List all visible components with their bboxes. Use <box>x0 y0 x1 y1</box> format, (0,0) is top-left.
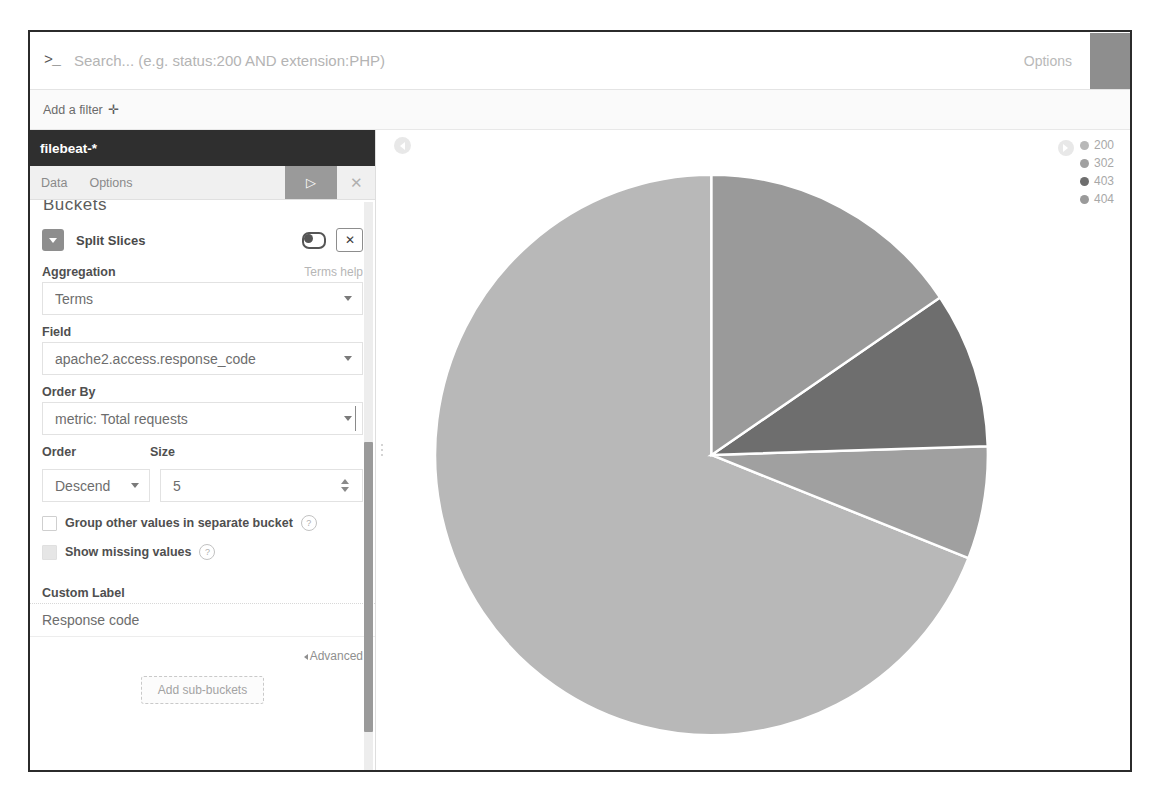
play-icon: ▷ <box>306 175 316 190</box>
stepper-down-icon[interactable] <box>341 487 349 492</box>
query-bar: >_ Options <box>30 32 1130 90</box>
dot <box>381 454 383 456</box>
discard-changes-button[interactable]: ✕ <box>337 166 375 199</box>
aggregation-select[interactable]: Terms <box>42 282 363 315</box>
group-other-checkbox[interactable] <box>42 516 57 531</box>
pie-chart-svg[interactable] <box>388 130 1130 770</box>
agg-title: Split Slices <box>76 233 302 248</box>
console-prompt-icon: >_ <box>44 52 60 69</box>
add-filter-button[interactable]: Add a filter ✛ <box>43 103 119 117</box>
field-field-row: Field <box>42 325 363 339</box>
query-options-link[interactable]: Options <box>1024 53 1072 69</box>
custom-label-block: Custom Label <box>42 586 363 600</box>
order-by-label: Order By <box>42 385 96 399</box>
field-label: Field <box>42 325 71 339</box>
chevron-down-icon <box>344 296 352 301</box>
stepper-arrows-icon[interactable] <box>338 479 352 492</box>
order-direction-value: Descend <box>55 478 131 494</box>
advanced-label: Advanced <box>310 649 363 663</box>
order-direction-select[interactable]: Descend <box>42 469 150 502</box>
search-input[interactable] <box>74 52 1024 69</box>
chevron-left-icon <box>304 654 308 660</box>
aggregation-label: Aggregation <box>42 265 116 279</box>
filter-bar: Add a filter ✛ <box>30 90 1130 130</box>
size-stepper[interactable]: 5 <box>160 469 363 502</box>
drag-dots-icon <box>381 444 383 456</box>
body-area: filebeat-* Data Options ▷ ✕ <box>30 130 1130 770</box>
visualization-editor-sidebar: filebeat-* Data Options ▷ ✕ <box>30 130 376 770</box>
close-icon: ✕ <box>350 174 363 192</box>
sidebar-scrollbar[interactable] <box>364 202 373 770</box>
add-subbuckets-row: Add sub-buckets <box>42 676 363 704</box>
order-by-field-row: Order By <box>42 385 363 399</box>
show-missing-label: Show missing values <box>65 545 191 559</box>
terms-help-link[interactable]: Terms help <box>304 265 363 279</box>
tab-data-label: Data <box>41 176 67 190</box>
help-icon[interactable]: ? <box>199 544 215 560</box>
size-label: Size <box>150 445 363 459</box>
buckets-heading: Buckets <box>43 200 375 215</box>
order-by-select[interactable]: metric: Total requests <box>42 402 363 435</box>
custom-label-input[interactable] <box>30 603 375 637</box>
remove-agg-button[interactable]: ✕ <box>336 228 363 252</box>
group-other-row[interactable]: Group other values in separate bucket ? <box>42 515 363 531</box>
custom-label-label: Custom Label <box>42 586 125 600</box>
enable-toggle[interactable] <box>302 232 326 249</box>
order-size-label-row: Order Size <box>42 445 363 459</box>
close-icon: ✕ <box>345 233 355 247</box>
plus-icon: ✛ <box>108 103 119 116</box>
index-pattern-header: filebeat-* <box>30 130 375 166</box>
aggregation-field-row: Aggregation Terms help <box>42 265 363 279</box>
group-other-label: Group other values in separate bucket <box>65 516 293 530</box>
tab-options[interactable]: Options <box>78 166 143 199</box>
size-value: 5 <box>173 478 338 494</box>
order-by-value: metric: Total requests <box>55 411 344 427</box>
aggregation-value: Terms <box>55 291 344 307</box>
order-size-row: Descend 5 <box>42 469 363 502</box>
agg-card-header: Split Slices ✕ <box>42 225 363 255</box>
pie-chart <box>388 130 1130 770</box>
custom-label-row: Custom Label <box>42 586 363 600</box>
screenshot-root: >_ Options Add a filter ✛ filebeat-* Dat… <box>0 0 1160 801</box>
advanced-toggle-link[interactable]: Advanced <box>304 649 363 663</box>
tab-spacer <box>144 166 286 199</box>
split-slices-agg-card: Split Slices ✕ Aggregation Terms help Te… <box>42 225 363 600</box>
caret-down-icon[interactable] <box>42 229 64 251</box>
order-label: Order <box>42 445 150 459</box>
field-select[interactable]: apache2.access.response_code <box>42 342 363 375</box>
panel-resize-handle[interactable] <box>376 130 388 770</box>
dot <box>381 444 383 446</box>
agg-panel-scroll-area: Buckets Split Slices ✕ <box>30 200 375 770</box>
show-missing-row[interactable]: Show missing values ? <box>42 544 363 560</box>
add-filter-label: Add a filter <box>43 103 103 117</box>
help-icon[interactable]: ? <box>301 515 317 531</box>
app-window: >_ Options Add a filter ✛ filebeat-* Dat… <box>28 30 1132 772</box>
caret-glyph <box>49 238 57 243</box>
add-subbuckets-button[interactable]: Add sub-buckets <box>141 676 264 704</box>
chevron-down-icon <box>344 416 352 421</box>
editor-tab-bar: Data Options ▷ ✕ <box>30 166 375 200</box>
show-missing-checkbox[interactable] <box>42 545 57 560</box>
search-submit-button[interactable] <box>1090 33 1130 89</box>
stepper-up-icon[interactable] <box>341 479 349 484</box>
visualization-pane: 200302403404 <box>388 130 1130 770</box>
tab-data[interactable]: Data <box>30 166 78 199</box>
advanced-row: Advanced <box>42 646 363 664</box>
field-value: apache2.access.response_code <box>55 351 344 367</box>
index-pattern-name: filebeat-* <box>40 141 97 156</box>
dot <box>381 449 383 451</box>
chevron-down-icon <box>131 483 139 488</box>
chevron-down-icon <box>344 356 352 361</box>
sidebar-scrollbar-thumb[interactable] <box>364 442 373 732</box>
apply-changes-button[interactable]: ▷ <box>285 166 337 199</box>
tab-options-label: Options <box>89 176 132 190</box>
